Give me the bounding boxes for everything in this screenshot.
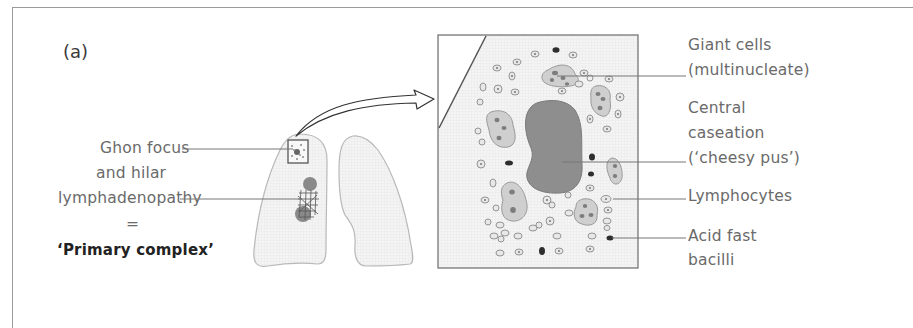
ghon-focus-marker [288, 140, 308, 163]
arrow-icon [296, 90, 434, 136]
lungs-icon [254, 134, 413, 266]
right-lung [339, 136, 413, 266]
histology-inset [438, 35, 638, 268]
central-caseation [526, 101, 583, 194]
